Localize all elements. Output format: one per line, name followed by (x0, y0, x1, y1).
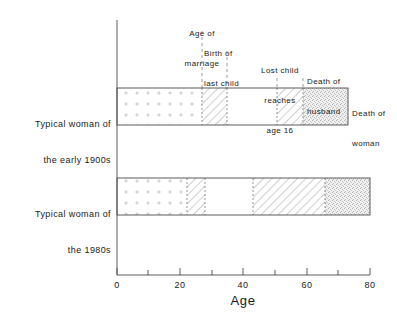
annotation-death-of-husband-line1: Death of (307, 77, 369, 87)
annotation-lost-child-line3: age 16 (251, 126, 309, 136)
category-label-1980s-line2: the 1980s (5, 244, 111, 256)
x-tick-label-20: 20 (168, 280, 192, 290)
chart-figure: Age of marriage Birth of last child Lost… (0, 0, 397, 322)
annotation-lost-child-line1: Lost child (251, 66, 309, 76)
category-label-early-1900s: Typical woman of the early 1900s (5, 94, 111, 190)
bar2-segment-childrearing (205, 178, 253, 215)
x-tick-label-60: 60 (295, 280, 319, 290)
x-tick-label-40: 40 (231, 280, 255, 290)
annotation-death-of-woman: Death of woman (352, 89, 397, 169)
annotation-death-of-woman-line2: woman (352, 139, 397, 149)
bar-1980s (117, 178, 370, 215)
x-tick-label-0: 0 (105, 280, 129, 290)
annotation-lost-child-line2: reaches (251, 96, 309, 106)
annotation-death-of-woman-line1: Death of (352, 109, 397, 119)
annotation-lost-child-age-16: Lost child reaches age 16 (251, 46, 309, 156)
bar2-segment-before-marriage (117, 178, 187, 215)
bar2-segment-empty-nest (253, 178, 325, 215)
bar2-segment-widowhood (325, 178, 370, 215)
category-label-early-1900s-line1: Typical woman of (5, 118, 111, 130)
x-axis-major-ticks (117, 268, 370, 275)
category-label-1980s-line1: Typical woman of (5, 208, 111, 220)
category-label-1980s: Typical woman of the 1980s (5, 184, 111, 280)
category-label-early-1900s-line2: the early 1900s (5, 154, 111, 166)
bar1-segment-before-marriage (117, 88, 202, 125)
bar2-segment-childbearing (187, 178, 205, 215)
x-axis-title: Age (213, 296, 273, 306)
x-tick-label-80: 80 (358, 280, 382, 290)
